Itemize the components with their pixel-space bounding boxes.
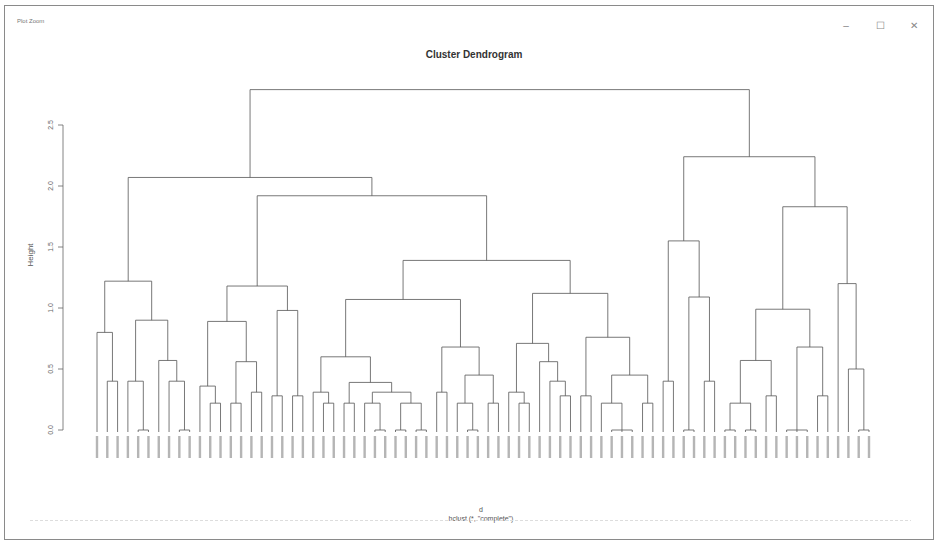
leaf-label [394,436,396,458]
leaf-label [693,436,695,458]
leaf-label [260,436,262,458]
leaf-label [446,436,448,458]
leaf-label [178,436,180,458]
leaf-label [837,436,839,458]
leaf-label [240,436,242,458]
y-tick-label: 0.0 [47,425,54,435]
leaf-label [374,436,376,458]
leaf-label [518,436,520,458]
chart-title: Cluster Dendrogram [426,49,523,60]
leaf-label [127,436,129,458]
leaf-label [487,436,489,458]
leaf-label [312,436,314,458]
leaf-label [775,436,777,458]
leaf-label [559,436,561,458]
leaf-label [549,436,551,458]
leaf-label [333,436,335,458]
leaf-labels [96,436,870,458]
leaf-label [600,436,602,458]
leaf-label [209,436,211,458]
leaf-label [569,436,571,458]
leaf-label [652,436,654,458]
leaf-label [456,436,458,458]
leaf-label [271,436,273,458]
leaf-label [230,436,232,458]
method-label: hclust (*, "complete") [449,515,514,523]
leaf-label [662,436,664,458]
leaf-label [199,436,201,458]
leaf-label [538,436,540,458]
y-tick-label: 1.0 [47,303,54,313]
y-tick-label: 2.5 [47,120,54,130]
leaf-label [425,436,427,458]
x-axis-label: d [479,506,483,513]
leaf-label [858,436,860,458]
leaf-label [322,436,324,458]
leaf-label [466,436,468,458]
leaf-label [621,436,623,458]
leaf-label [188,436,190,458]
leaf-label [580,436,582,458]
leaf-label [683,436,685,458]
leaf-label [528,436,530,458]
leaf-label [755,436,757,458]
leaf-label [302,436,304,458]
leaf-label [816,436,818,458]
leaf-label [384,436,386,458]
dendrogram-plot: Cluster Dendrogram Height d hclust (*, "… [0,0,941,548]
leaf-label [96,436,98,458]
leaf-label [713,436,715,458]
leaf-label [415,436,417,458]
y-tick-label: 0.5 [47,364,54,374]
leaf-label [641,436,643,458]
leaf-label [116,436,118,458]
y-tick-label: 2.0 [47,181,54,191]
leaf-label [796,436,798,458]
leaf-label [158,436,160,458]
y-axis-label: Height [26,243,35,267]
leaf-label [724,436,726,458]
leaf-label [734,436,736,458]
leaf-label [868,436,870,458]
leaf-label [672,436,674,458]
leaf-label [168,436,170,458]
leaf-label [631,436,633,458]
leaf-label [219,436,221,458]
leaf-label [610,436,612,458]
leaf-label [147,436,149,458]
leaf-label [106,436,108,458]
leaf-label [744,436,746,458]
leaf-label [765,436,767,458]
leaf-label [806,436,808,458]
leaf-label [343,436,345,458]
leaf-label [405,436,407,458]
leaf-label [497,436,499,458]
leaf-label [281,436,283,458]
leaf-label [291,436,293,458]
leaf-label [785,436,787,458]
leaf-label [703,436,705,458]
y-axis: 0.00.51.01.52.02.5 [47,120,63,435]
leaf-label [250,436,252,458]
leaf-label [435,436,437,458]
leaf-label [477,436,479,458]
dendrogram-tree [97,90,869,432]
leaf-label [137,436,139,458]
leaf-label [847,436,849,458]
leaf-label [508,436,510,458]
y-tick-label: 1.5 [47,242,54,252]
leaf-label [827,436,829,458]
divider [30,520,911,521]
leaf-label [363,436,365,458]
leaf-label [353,436,355,458]
leaf-label [590,436,592,458]
